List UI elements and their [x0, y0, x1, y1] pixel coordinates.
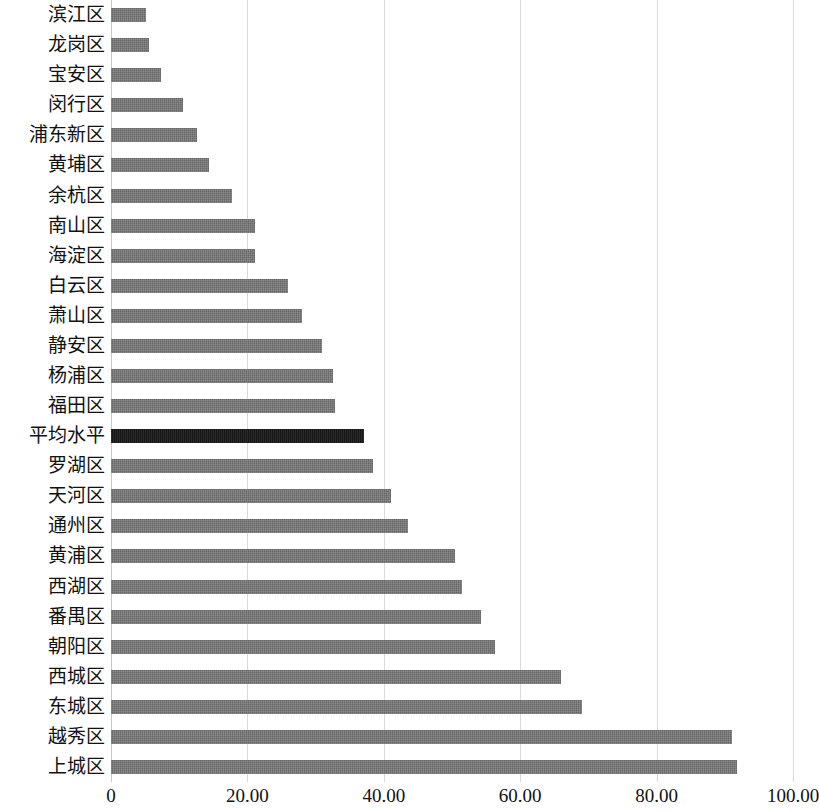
x-tick-label: 0 — [106, 784, 116, 808]
bar-row — [111, 36, 793, 54]
bar — [111, 459, 373, 473]
x-tick-label: 100.00 — [767, 784, 819, 808]
bar-row — [111, 728, 793, 746]
bar — [111, 730, 732, 744]
bar-row — [111, 367, 793, 385]
bar — [111, 489, 391, 503]
category-label: 平均水平 — [0, 426, 105, 445]
bar-row — [111, 66, 793, 84]
bar-chart: 滨江区龙岗区宝安区闵行区浦东新区黄埔区余杭区南山区海淀区白云区萧山区静安区杨浦区… — [0, 0, 819, 812]
bar-row — [111, 487, 793, 505]
bar — [111, 700, 582, 714]
bar-row — [111, 337, 793, 355]
bar — [111, 279, 288, 293]
category-label: 东城区 — [0, 697, 105, 716]
bar — [111, 309, 302, 323]
bar — [111, 249, 255, 263]
bar — [111, 399, 335, 413]
category-label: 余杭区 — [0, 186, 105, 205]
bar-row — [111, 578, 793, 596]
bar — [111, 670, 561, 684]
category-label: 上城区 — [0, 757, 105, 776]
category-label: 龙岗区 — [0, 35, 105, 54]
bar — [111, 8, 146, 22]
category-label: 通州区 — [0, 516, 105, 535]
category-label: 白云区 — [0, 276, 105, 295]
bar — [111, 128, 197, 142]
category-label: 朝阳区 — [0, 637, 105, 656]
bar — [111, 189, 232, 203]
category-label: 海淀区 — [0, 246, 105, 265]
bar — [111, 369, 333, 383]
category-axis-labels: 滨江区龙岗区宝安区闵行区浦东新区黄埔区余杭区南山区海淀区白云区萧山区静安区杨浦区… — [0, 0, 105, 782]
category-label: 闵行区 — [0, 95, 105, 114]
bar-row — [111, 156, 793, 174]
category-label: 萧山区 — [0, 306, 105, 325]
bar-row — [111, 698, 793, 716]
bar-row — [111, 187, 793, 205]
bar-row — [111, 277, 793, 295]
bar-row — [111, 247, 793, 265]
bar — [111, 580, 462, 594]
category-label: 罗湖区 — [0, 456, 105, 475]
category-label: 南山区 — [0, 216, 105, 235]
bar-row — [111, 427, 793, 445]
category-label: 黄浦区 — [0, 546, 105, 565]
bar-row — [111, 6, 793, 24]
bar — [111, 98, 183, 112]
category-label: 静安区 — [0, 336, 105, 355]
bar — [111, 760, 737, 774]
x-tick-label: 60.00 — [499, 784, 542, 808]
category-label: 天河区 — [0, 486, 105, 505]
bar-row — [111, 307, 793, 325]
bar — [111, 38, 149, 52]
category-label: 浦东新区 — [0, 125, 105, 144]
bar-row — [111, 126, 793, 144]
bar-row — [111, 457, 793, 475]
bar — [111, 219, 255, 233]
bar-row — [111, 517, 793, 535]
category-label: 越秀区 — [0, 727, 105, 746]
bar — [111, 68, 161, 82]
x-tick-label: 80.00 — [635, 784, 678, 808]
bar — [111, 158, 209, 172]
bar-highlight — [111, 429, 364, 443]
category-label: 福田区 — [0, 396, 105, 415]
category-label: 黄埔区 — [0, 155, 105, 174]
category-label: 滨江区 — [0, 5, 105, 24]
category-label: 西城区 — [0, 667, 105, 686]
x-tick-label: 40.00 — [362, 784, 405, 808]
x-tick-label: 20.00 — [226, 784, 269, 808]
category-label: 杨浦区 — [0, 366, 105, 385]
bar — [111, 549, 455, 563]
bar-row — [111, 758, 793, 776]
bar-series — [111, 0, 793, 782]
category-label: 宝安区 — [0, 65, 105, 84]
bar-row — [111, 547, 793, 565]
bar-row — [111, 668, 793, 686]
bar — [111, 339, 322, 353]
bar — [111, 640, 495, 654]
category-label: 番禺区 — [0, 607, 105, 626]
gridline-100.00 — [793, 0, 794, 782]
bar — [111, 610, 481, 624]
category-label: 西湖区 — [0, 577, 105, 596]
value-axis-labels: 020.0040.0060.0080.00100.00 — [0, 784, 819, 812]
bar-row — [111, 608, 793, 626]
bar-row — [111, 96, 793, 114]
plot-area — [111, 0, 793, 782]
bar-row — [111, 397, 793, 415]
bar-row — [111, 217, 793, 235]
bar — [111, 519, 408, 533]
bar-row — [111, 638, 793, 656]
